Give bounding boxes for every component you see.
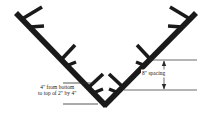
left-peg-3 (61, 45, 75, 60)
left-peg-1 (22, 7, 42, 19)
dimension-arrow-down (162, 84, 166, 90)
construction-diagram: 4" from bottom to top of 2" by 4" 8" spa… (0, 0, 208, 118)
left-dimension-note-line-2: to top of 2" by 4" (38, 90, 76, 96)
left-peg-6 (93, 89, 103, 93)
left-peg-5 (88, 74, 103, 88)
right-peg-1 (170, 7, 190, 19)
right-peg-3 (137, 45, 151, 60)
spacing-dimension-label: 8" spacing (142, 70, 165, 76)
dimension-arrow-up (162, 61, 166, 67)
right-peg-2 (168, 26, 182, 27)
left-dimension-note: 4" from bottom to top of 2" by 4" (38, 84, 76, 97)
left-peg-2 (30, 26, 44, 27)
right-peg-5 (109, 74, 124, 88)
diagram-canvas (0, 0, 208, 118)
